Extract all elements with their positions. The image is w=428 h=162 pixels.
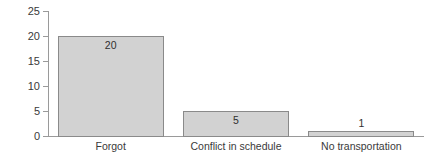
bar-forgot <box>58 36 164 137</box>
y-axis-tick <box>43 61 48 62</box>
bar-value-label: 20 <box>58 40 164 51</box>
y-axis-tick-label: 20 <box>10 31 40 42</box>
y-axis-tick-label: 10 <box>10 81 40 92</box>
y-axis-tick-label: 5 <box>10 106 40 117</box>
y-axis-tick-label: 0 <box>10 131 40 142</box>
y-axis-tick <box>43 86 48 87</box>
x-axis-category-label: Forgot <box>48 140 173 153</box>
x-axis-category-label: Conflict in schedule <box>173 140 298 153</box>
y-axis-tick-label: 25 <box>10 6 40 17</box>
y-axis-tick-label: 15 <box>10 56 40 67</box>
y-axis-line <box>48 11 49 137</box>
y-axis-tick <box>43 11 48 12</box>
bar-value-label: 1 <box>308 118 414 129</box>
y-axis-tick <box>43 36 48 37</box>
bar-no-transportation <box>308 131 414 137</box>
bar-chart: Missed visits 0 5 10 15 20 25 20 5 1 For… <box>0 0 428 162</box>
x-axis-category-label: No transportation <box>299 140 424 153</box>
bar-value-label: 5 <box>183 115 289 126</box>
y-axis-tick <box>43 136 48 137</box>
y-axis-tick <box>43 111 48 112</box>
